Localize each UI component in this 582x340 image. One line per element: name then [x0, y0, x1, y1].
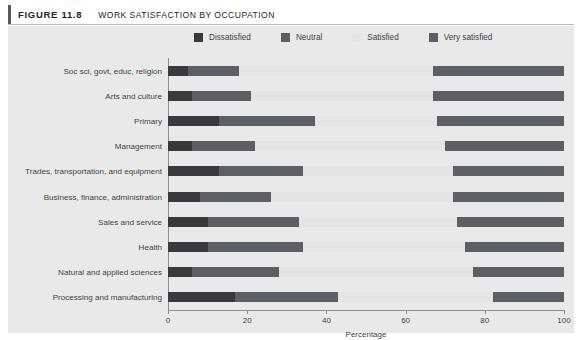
bar-segment-neutral [235, 292, 338, 302]
bar-segment-satisfied [303, 166, 453, 176]
chart-panel: DissatisfiedNeutralSatisfiedVery satisfi… [8, 26, 574, 333]
bar-segment-dissatisfied [168, 292, 235, 302]
x-axis-tick [564, 310, 565, 314]
bar-segment-very-satisfied [433, 66, 564, 76]
chart-legend: DissatisfiedNeutralSatisfiedVery satisfi… [8, 29, 574, 45]
legend-swatch-icon [281, 33, 290, 42]
bar-segment-satisfied [338, 292, 492, 302]
x-axis-tick [326, 310, 327, 314]
bar-row: Processing and manufacturing [168, 285, 564, 310]
bar-segment-satisfied [303, 242, 465, 252]
figure-number: FIGURE 11.8 [18, 9, 82, 20]
bar-segment-neutral [192, 267, 279, 277]
bar-segment-satisfied [315, 116, 438, 126]
legend-swatch-icon [194, 33, 203, 42]
bar-row: Health [168, 234, 564, 259]
legend-item-neutral[interactable]: Neutral [281, 33, 322, 42]
figure-header: FIGURE 11.8 WORK SATISFACTION BY OCCUPAT… [8, 5, 577, 24]
bar-segment-very-satisfied [437, 116, 564, 126]
x-axis-tick-label: 100 [557, 316, 570, 325]
x-axis-tick [247, 310, 248, 314]
bar-segment-very-satisfied [457, 217, 564, 227]
bar-segment-very-satisfied [465, 242, 564, 252]
header-divider [8, 24, 574, 25]
category-label: Natural and applied sciences [58, 268, 162, 277]
bar-segment-neutral [188, 66, 239, 76]
figure-title: WORK SATISFACTION BY OCCUPATION [98, 10, 275, 20]
bar-segment-dissatisfied [168, 217, 208, 227]
bar-segment-neutral [192, 141, 255, 151]
bar-segment-neutral [219, 166, 302, 176]
legend-swatch-icon [429, 33, 438, 42]
legend-label: Neutral [296, 33, 322, 42]
bar-row: Arts and culture [168, 83, 564, 108]
bar-segment-very-satisfied [453, 192, 564, 202]
bar-segment-satisfied [271, 192, 453, 202]
bar-segment-very-satisfied [473, 267, 564, 277]
x-axis-tick-label: 80 [480, 316, 489, 325]
x-axis-tick [406, 310, 407, 314]
bar-segment-very-satisfied [453, 166, 564, 176]
legend-item-dissatisfied[interactable]: Dissatisfied [194, 33, 251, 42]
bar-row: Management [168, 134, 564, 159]
category-label: Soc sci, govt, educ, religion [63, 66, 162, 75]
bar-row: Soc sci, govt, educ, religion [168, 58, 564, 83]
bar-segment-dissatisfied [168, 66, 188, 76]
x-axis-line [168, 310, 564, 311]
legend-label: Very satisfied [444, 33, 493, 42]
bar-segment-neutral [192, 91, 251, 101]
category-label: Health [139, 242, 162, 251]
figure-page: FIGURE 11.8 WORK SATISFACTION BY OCCUPAT… [0, 0, 582, 340]
bar-segment-dissatisfied [168, 242, 208, 252]
x-axis-tick-label: 20 [243, 316, 252, 325]
legend-label: Dissatisfied [209, 33, 251, 42]
bar-segment-neutral [200, 192, 271, 202]
bar-segment-very-satisfied [445, 141, 564, 151]
bar-segment-satisfied [299, 217, 457, 227]
bar-segment-dissatisfied [168, 141, 192, 151]
bar-segment-satisfied [279, 267, 473, 277]
bar-segment-dissatisfied [168, 192, 200, 202]
category-label: Primary [134, 116, 162, 125]
bar-segment-very-satisfied [433, 91, 564, 101]
x-axis-tick [168, 310, 169, 314]
x-axis-tick [485, 310, 486, 314]
bar-segment-dissatisfied [168, 91, 192, 101]
x-axis-title: Percentage [346, 330, 387, 339]
bar-row: Sales and service [168, 209, 564, 234]
bar-row: Natural and applied sciences [168, 260, 564, 285]
legend-swatch-icon [352, 33, 361, 42]
category-label: Arts and culture [105, 91, 162, 100]
x-axis-tick-label: 60 [401, 316, 410, 325]
category-label: Processing and manufacturing [53, 293, 162, 302]
category-label: Sales and service [98, 217, 162, 226]
bar-row: Trades, transportation, and equipment [168, 159, 564, 184]
bar-segment-neutral [208, 242, 303, 252]
bar-segment-satisfied [255, 141, 445, 151]
bar-segment-dissatisfied [168, 116, 219, 126]
legend-item-satisfied[interactable]: Satisfied [352, 33, 398, 42]
legend-item-very-satisfied[interactable]: Very satisfied [429, 33, 493, 42]
x-axis-tick-label: 40 [322, 316, 331, 325]
bar-segment-satisfied [251, 91, 433, 101]
bar-segment-dissatisfied [168, 267, 192, 277]
x-axis-tick-label: 0 [166, 316, 170, 325]
bar-row: Business, finance, administration [168, 184, 564, 209]
bar-segment-neutral [219, 116, 314, 126]
bar-segment-dissatisfied [168, 166, 219, 176]
bar-segment-satisfied [239, 66, 433, 76]
category-label: Trades, transportation, and equipment [25, 167, 162, 176]
bar-segment-very-satisfied [493, 292, 564, 302]
bar-row: Primary [168, 108, 564, 133]
bar-segment-neutral [208, 217, 299, 227]
legend-label: Satisfied [367, 33, 398, 42]
plot-area: Percentage 020406080100Soc sci, govt, ed… [168, 58, 564, 310]
category-label: Business, finance, administration [44, 192, 162, 201]
category-label: Management [115, 142, 162, 151]
